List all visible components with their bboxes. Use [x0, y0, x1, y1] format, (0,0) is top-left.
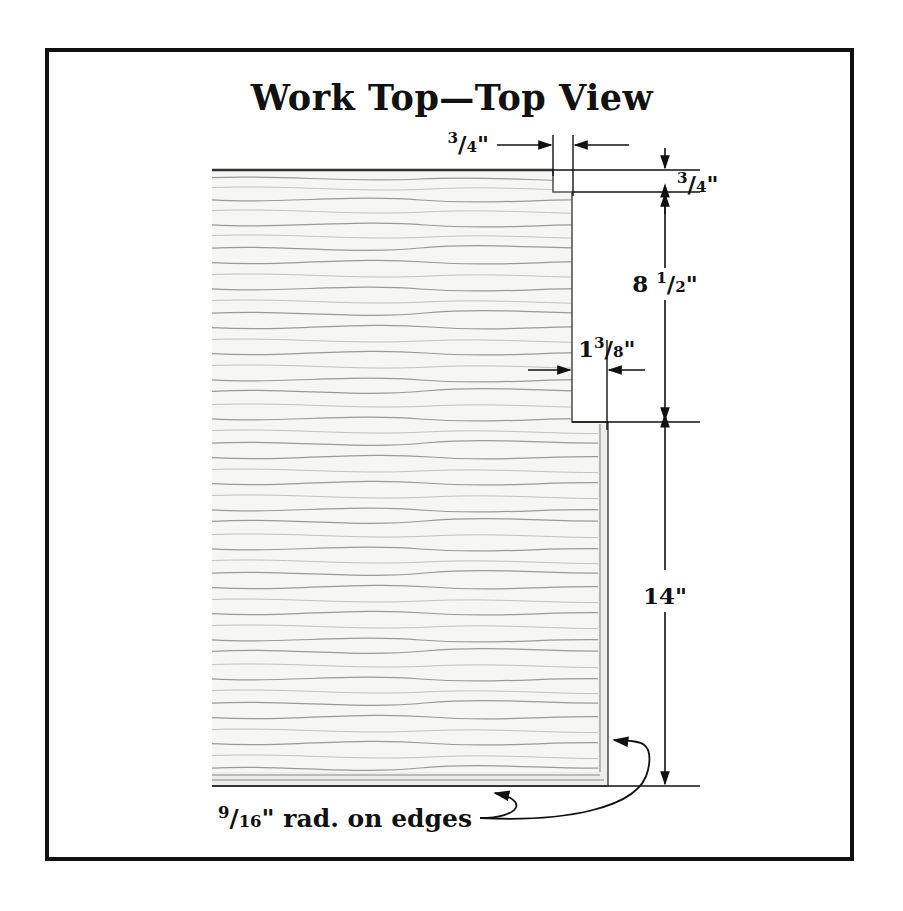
work-top-part — [200, 170, 640, 786]
dimension-label-lower-height: 14" — [643, 582, 687, 609]
leader-to-bottom-edge — [480, 793, 516, 818]
dimension-label-notch-depth: 3/4" — [677, 169, 719, 197]
dimension-lower-section-height: 14" — [608, 426, 700, 786]
note-edge-radius-label: 9/16" rad. on edges — [218, 803, 472, 834]
dimension-label-upper-height: 8 1/2" — [632, 269, 698, 297]
technical-drawing-canvas: Work Top—Top View — [0, 0, 903, 911]
dimension-notch-depth-top: 3/4" — [553, 148, 719, 214]
bottom-edge-radius-strip — [212, 772, 608, 786]
drawing-page: Work Top—Top View — [0, 0, 903, 911]
page-title: Work Top—Top View — [250, 77, 654, 118]
dimension-label-notch-width: 3/4" — [447, 129, 489, 157]
dimension-upper-section-height: 8 1/2" — [572, 196, 700, 422]
dimension-label-notch-offset: 13/8" — [578, 334, 636, 362]
